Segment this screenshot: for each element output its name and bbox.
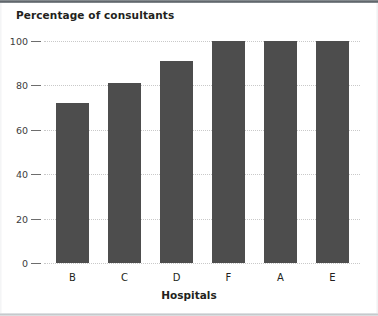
- y-axis-tick-mark: [31, 85, 41, 86]
- y-axis-tick-label: 40: [16, 169, 28, 180]
- bar: [160, 61, 193, 263]
- x-axis-tick-label: E: [316, 272, 349, 283]
- gridline: [44, 174, 360, 175]
- y-axis-tick-mark: [31, 130, 41, 131]
- y-axis-tick-mark: [31, 41, 41, 42]
- y-axis-tick-mark: [31, 263, 41, 264]
- y-axis-tick-label: 20: [16, 213, 28, 224]
- y-axis-tick-mark: [31, 174, 41, 175]
- bar: [264, 41, 297, 263]
- figure-left-border: [0, 3, 2, 313]
- gridline: [44, 41, 360, 42]
- y-axis-tick-mark: [31, 219, 41, 220]
- y-axis-tick-label: 100: [10, 36, 28, 47]
- x-axis-tick-label: C: [108, 272, 141, 283]
- y-axis-tick-label: 80: [16, 80, 28, 91]
- x-axis-label: Hospitals: [0, 289, 378, 301]
- gridline: [44, 263, 360, 264]
- x-axis-tick-label: A: [264, 272, 297, 283]
- gridline: [44, 85, 360, 86]
- gridline: [44, 219, 360, 220]
- x-axis-tick-label: F: [212, 272, 245, 283]
- bar: [108, 83, 141, 263]
- x-axis-tick-label: D: [160, 272, 193, 283]
- plot-area: 020406080100: [44, 41, 360, 263]
- chart-figure: Percentage of consultants 020406080100 B…: [0, 0, 378, 316]
- figure-top-border: [0, 0, 378, 3]
- gridline: [44, 130, 360, 131]
- y-axis-tick-label: 0: [22, 258, 28, 269]
- bar: [56, 103, 89, 263]
- chart-title: Percentage of consultants: [16, 9, 174, 21]
- x-axis-tick-label: B: [56, 272, 89, 283]
- bar: [316, 41, 349, 263]
- y-axis-tick-label: 60: [16, 124, 28, 135]
- bar: [212, 41, 245, 263]
